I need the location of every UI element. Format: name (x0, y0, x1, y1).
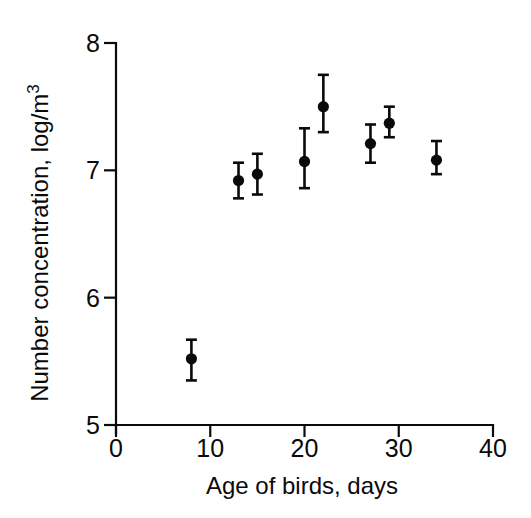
data-point (365, 124, 376, 162)
y-axis-label-main: Number concentration, log/m (26, 94, 53, 402)
x-tick-label: 20 (291, 434, 319, 462)
data-point (318, 75, 329, 132)
figure: 5678010203040 Age of birds, days Number … (0, 0, 531, 518)
data-point-marker (384, 118, 395, 129)
y-tick-label: 7 (86, 156, 100, 184)
y-tick-label: 5 (86, 411, 100, 439)
x-tick-label: 40 (479, 434, 507, 462)
scatter-chart: 5678010203040 Age of birds, days Number … (0, 0, 531, 518)
data-point-marker (233, 175, 244, 186)
data-point-marker (186, 353, 197, 364)
x-tick-label: 30 (385, 434, 413, 462)
y-axis-label-superscript: 3 (24, 84, 43, 93)
data-point (186, 340, 197, 381)
x-tick-label: 0 (109, 434, 123, 462)
data-point-marker (299, 156, 310, 167)
y-tick-label: 8 (86, 29, 100, 57)
y-tick-label: 6 (86, 284, 100, 312)
data-point (233, 163, 244, 199)
data-point-marker (318, 101, 329, 112)
x-axis-label: Age of birds, days (206, 472, 398, 499)
y-axis-label: Number concentration, log/m3 (24, 84, 53, 402)
data-point-marker (365, 138, 376, 149)
data-point-marker (431, 155, 442, 166)
data-series (186, 75, 442, 381)
x-tick-label: 10 (196, 434, 224, 462)
data-point (299, 128, 310, 188)
data-point (384, 107, 395, 138)
data-point-marker (252, 169, 263, 180)
data-point (252, 154, 263, 195)
data-point (431, 141, 442, 174)
axes: 5678010203040 (86, 29, 507, 462)
